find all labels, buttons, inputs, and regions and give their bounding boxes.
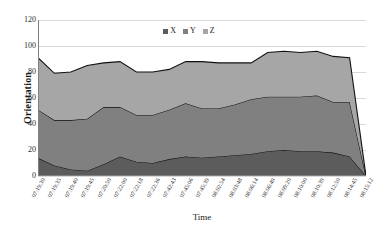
x-axis-tick-label: 08:09:20	[276, 177, 292, 198]
y-axis-tick-label: 80	[28, 68, 36, 76]
x-axis-tick-label: 07:45:39	[194, 177, 210, 198]
x-axis-tick-label: 07:22:36	[145, 177, 161, 198]
x-axis-tick-label: 07:19:40	[63, 177, 79, 198]
x-axis-line	[38, 175, 366, 176]
x-axis-tick-label: 07:19:35	[47, 177, 63, 198]
x-axis-tick-label: 08:06:14	[244, 177, 260, 198]
stacked-area-chart: Orientation 020406080100120 XYZ Time 07:…	[0, 0, 378, 237]
y-axis-tick-label: 100	[24, 42, 36, 50]
x-axis-tick-labels: Time 07:19:3007:19:3507:19:4007:19:4507:…	[38, 177, 366, 225]
x-axis-tick-label: 08:14:45	[342, 177, 358, 198]
y-axis-line	[38, 20, 39, 176]
chart-legend: XYZ	[0, 27, 378, 35]
legend-label: X	[170, 27, 176, 35]
legend-item-z[interactable]: Z	[203, 27, 215, 35]
x-axis-tick-label: 07:20:50	[96, 177, 112, 198]
x-axis-title: Time	[38, 212, 366, 222]
x-axis-tick-label: 07:22:18	[129, 177, 145, 198]
legend-item-x[interactable]: X	[163, 27, 176, 35]
y-axis-tick-label: 120	[24, 16, 36, 24]
x-axis-tick-label: 08:10:00	[293, 177, 309, 198]
y-axis-tick-labels: 020406080100120	[14, 0, 36, 237]
x-axis-tick-label: 08:10:39	[309, 177, 325, 198]
y-axis-tick-label: 20	[28, 146, 36, 154]
x-axis-tick-label: 07:19:45	[80, 177, 96, 198]
x-axis-tick-label: 08:03:48	[227, 177, 243, 198]
x-axis-tick-label: 08:12:50	[326, 177, 342, 198]
y-axis-tick-label: 60	[28, 94, 36, 102]
x-axis-tick-label: 07:22:00	[112, 177, 128, 198]
legend-swatch-icon	[183, 29, 188, 34]
y-axis-tick-label: 40	[28, 120, 36, 128]
legend-item-y[interactable]: Y	[183, 27, 196, 35]
x-axis-tick-label: 08:02:54	[211, 177, 227, 198]
series-areas	[38, 20, 366, 176]
x-axis-tick-label: 08:15:12	[358, 177, 374, 198]
y-axis-tick-label: 0	[32, 172, 36, 180]
plot-area	[38, 20, 366, 176]
x-axis-tick-label: 07:42:43	[162, 177, 178, 198]
legend-label: Z	[210, 27, 215, 35]
legend-swatch-icon	[203, 29, 208, 34]
legend-label: Y	[190, 27, 196, 35]
x-axis-tick-label: 07:45:06	[178, 177, 194, 198]
legend-swatch-icon	[163, 29, 168, 34]
x-axis-tick-label: 08:06:49	[260, 177, 276, 198]
